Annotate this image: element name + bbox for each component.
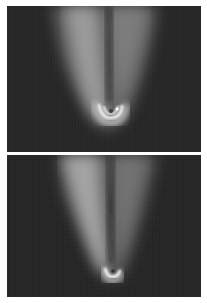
image-panel-bottom — [7, 155, 201, 297]
image-panel-top — [7, 6, 201, 152]
plume-graphic-top — [7, 6, 201, 152]
plume-graphic-bottom — [7, 155, 201, 297]
